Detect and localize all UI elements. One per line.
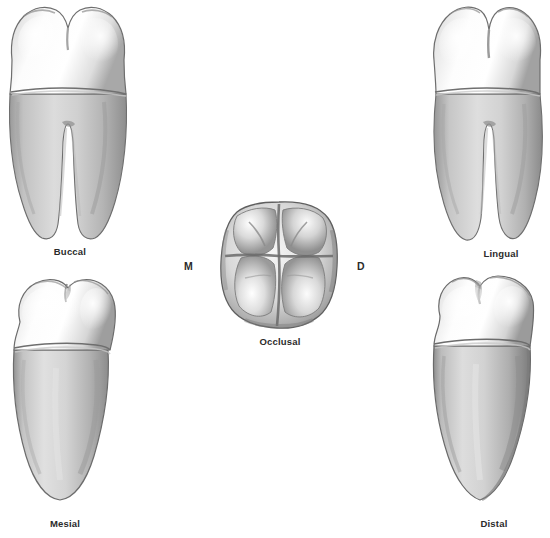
tooth-view-distal: [418, 274, 550, 510]
caption-buccal: Buccal: [20, 246, 120, 257]
tooth-view-buccal: [0, 2, 136, 244]
orientation-letter-mesial: M: [184, 260, 193, 272]
orientation-letter-distal: D: [357, 260, 365, 272]
mesial-tooth-drawing: [14, 280, 116, 500]
distal-tooth-drawing: [434, 276, 534, 500]
dental-anatomy-figure: Buccal: [0, 0, 550, 538]
caption-occlusal: Occlusal: [230, 336, 330, 347]
tooth-view-lingual: [418, 0, 550, 248]
caption-lingual: Lingual: [451, 248, 550, 259]
buccal-tooth-drawing: [10, 7, 127, 239]
tooth-view-occlusal: [215, 196, 343, 336]
lingual-tooth-drawing: [434, 7, 543, 240]
tooth-view-mesial: [0, 276, 136, 510]
caption-mesial: Mesial: [15, 518, 115, 529]
caption-distal: Distal: [444, 518, 544, 529]
occlusal-tooth-drawing: [221, 202, 337, 328]
